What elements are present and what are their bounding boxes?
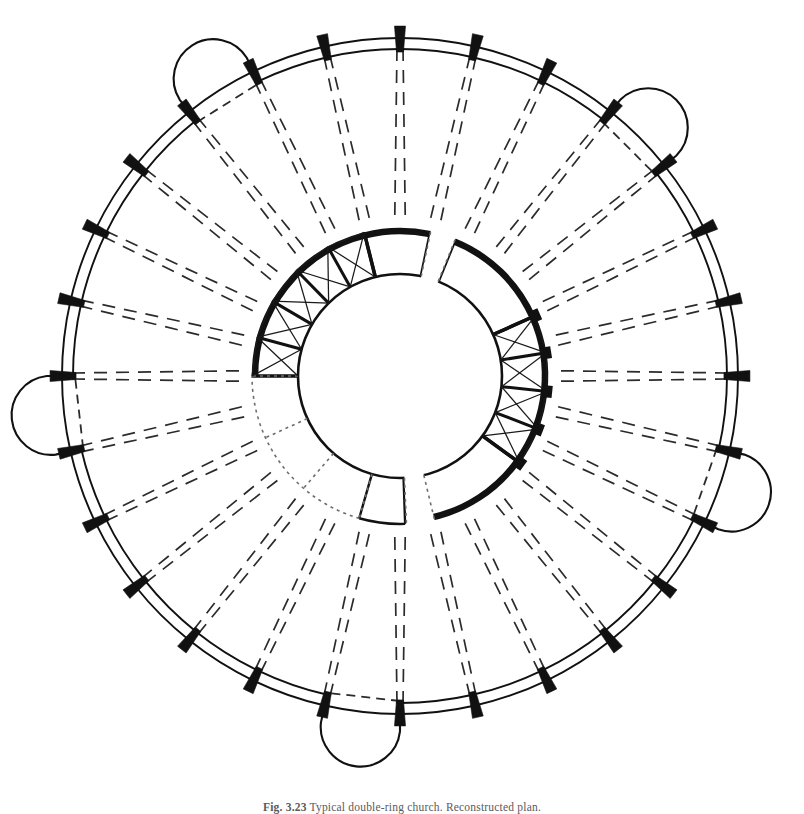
outer-pier — [82, 219, 109, 238]
outer-ring-inner-arc — [81, 234, 105, 303]
outer-ring-inner-arc — [105, 172, 144, 234]
chapel-north-east — [610, 88, 688, 166]
chapel-west-mouth-dashed — [75, 376, 83, 448]
outer-pier — [123, 575, 149, 598]
outer-ring-inner-arc — [695, 234, 719, 303]
radiating-rib — [553, 406, 720, 447]
radiating-rib — [553, 306, 720, 347]
outer-ring-outer-arc — [400, 38, 475, 46]
radiating-rib — [543, 236, 697, 313]
radiating-rib — [403, 532, 405, 704]
radiating-rib — [430, 56, 471, 223]
radiating-rib — [493, 118, 602, 251]
rotunda-inner-wall — [298, 274, 502, 478]
outer-ring-inner-arc — [81, 449, 105, 518]
radiating-rib — [395, 48, 397, 220]
sector-s-vaulted-radial-wall — [493, 316, 535, 335]
vault-chord — [296, 247, 327, 270]
sector-nw-hidden-radial-wall — [266, 419, 308, 438]
circular-church-plan — [0, 0, 804, 814]
chapels-layer — [12, 39, 771, 766]
figure-sheet: Fig. 3.23 Typical double-ring church. Re… — [0, 0, 804, 814]
outer-ring-outer-arc — [547, 640, 611, 680]
outer-ring-inner-arc — [473, 671, 542, 695]
outer-ring-inner-arc — [542, 81, 604, 120]
sector-sw-plain-radial-wall — [483, 436, 520, 463]
radiating-rib — [493, 501, 602, 634]
outer-ring-inner-arc — [656, 172, 695, 234]
radiating-rib — [80, 306, 247, 347]
radiating-rib — [395, 532, 397, 704]
radiating-rib — [81, 300, 249, 336]
outer-ring-outer-arc — [664, 165, 704, 229]
radiating-rib — [430, 529, 471, 696]
radiating-rib — [463, 519, 540, 673]
outer-ring-inner-arc — [327, 49, 400, 57]
sector-s-vaulted-radial-wall — [501, 353, 546, 360]
radiating-rib — [80, 406, 247, 447]
chapel-east — [704, 451, 771, 532]
sector-w-plain-outer-wall — [359, 518, 405, 524]
outer-ring-outer-arc — [325, 38, 400, 46]
figure-number: Fig. 3.23 — [263, 801, 307, 813]
sector-ne-vaulted-outer-wall — [255, 235, 365, 376]
radiating-rib — [463, 79, 540, 233]
outer-ring-outer-arc — [136, 112, 190, 166]
radiating-rib — [556, 371, 728, 373]
radiating-rib — [198, 501, 307, 634]
sector-e-plain-outer-wall — [365, 231, 430, 235]
outer-ring-inner-arc — [719, 303, 727, 376]
outer-pier — [123, 154, 149, 177]
radiating-rib — [142, 174, 275, 283]
radiating-rib — [324, 527, 360, 695]
sector-nw-hidden-outer-wall — [252, 376, 359, 518]
outer-ring-inner-arc — [400, 49, 473, 57]
radiating-rib — [525, 469, 658, 578]
radiating-rib — [543, 439, 697, 516]
outer-pier — [537, 58, 556, 85]
outer-ring-inner-arc — [473, 57, 542, 81]
outer-ring-inner-arc — [656, 518, 695, 580]
figure-caption: Fig. 3.23 Typical double-ring church. Re… — [0, 800, 804, 814]
outer-ring-inner-arc — [105, 518, 144, 580]
outer-ring-outer-arc — [95, 523, 135, 587]
outer-pier — [690, 219, 717, 238]
outer-pier — [178, 627, 201, 653]
radiating-rib — [551, 416, 719, 452]
vault-diagonal — [272, 301, 328, 303]
radiating-rib — [81, 416, 249, 452]
outer-pier — [395, 700, 406, 726]
radiating-ribs-layer — [72, 48, 728, 704]
outer-ring-outer-arc — [62, 301, 70, 376]
outer-ring-inner-arc — [542, 632, 604, 671]
outer-pier — [243, 666, 262, 693]
radiating-rib — [198, 118, 307, 251]
outer-ring-outer-arc — [611, 587, 665, 641]
outer-pier — [651, 575, 677, 598]
annulus-vaults — [252, 232, 553, 470]
sector-nw-hidden-radial-wall — [304, 453, 334, 488]
radiating-rib — [556, 379, 728, 381]
radiating-rib — [551, 300, 719, 336]
chapel-south-mouth-dashed — [328, 693, 400, 701]
outer-ring-outer-arc — [189, 640, 253, 680]
radiating-rib — [103, 236, 257, 313]
radiating-rib — [324, 57, 360, 225]
outer-ring-outer-arc — [730, 376, 738, 451]
outer-ring-outer-arc — [547, 71, 611, 111]
radiating-rib — [440, 57, 476, 225]
outer-ring-wall — [62, 38, 738, 714]
outer-pier — [537, 666, 556, 693]
outer-ring-outer-arc — [136, 587, 190, 641]
annulus-pier — [540, 346, 552, 359]
radiating-rib — [72, 371, 244, 373]
outer-ring-outer-arc — [95, 165, 135, 229]
vault-diagonal — [328, 247, 329, 303]
radiating-rib — [330, 529, 371, 696]
opening-west — [404, 470, 435, 529]
radiating-rib — [260, 79, 337, 233]
outer-ring-outer-arc — [730, 301, 738, 376]
radiating-rib — [440, 527, 476, 695]
outer-ring-inner-arc — [258, 671, 327, 695]
outer-ring-outer-arc — [664, 523, 704, 587]
